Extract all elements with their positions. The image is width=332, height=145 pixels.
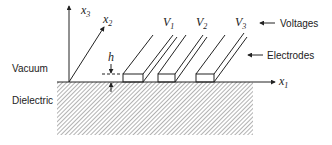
dielectric-label: Dielectric [12, 95, 53, 106]
voltages-callout: Voltages [280, 18, 318, 29]
voltage-label-v2: V2 [196, 15, 207, 31]
voltage-label-v1: V1 [163, 15, 174, 31]
x3-axis-label: x3 [80, 3, 90, 19]
x1-axis-label: x1 [278, 74, 288, 90]
electrode-2 [158, 35, 207, 82]
electrodes-callout: Electrodes [267, 50, 314, 61]
voltage-label-v3: V3 [235, 15, 246, 31]
height-label: h [108, 50, 114, 64]
x2-axis-label: x2 [102, 12, 112, 28]
dielectric-region [57, 82, 253, 135]
x2-axis [69, 27, 104, 82]
electrode-3 [196, 33, 247, 82]
electrode-diagram: x1 x3 x2 Vacuum Dielectric h V1 V2 V3 Vo… [0, 0, 332, 145]
vacuum-label: Vacuum [12, 63, 48, 74]
